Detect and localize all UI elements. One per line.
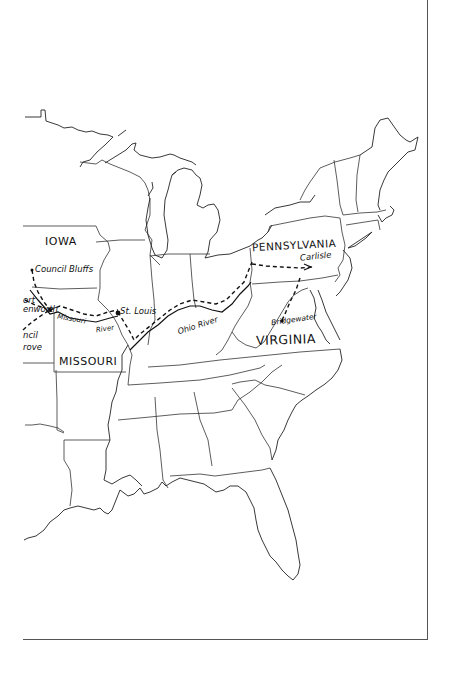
maine-coast (360, 118, 418, 210)
place-label-council-grove-line2: rove (23, 343, 42, 352)
cape-cod (378, 206, 394, 222)
upper-peninsula-shore (105, 143, 196, 165)
state-label-virginia: VIRGINIA (256, 333, 316, 348)
pennsylvania-east-border (335, 260, 343, 282)
lake-michigan-east-shore (146, 172, 176, 258)
tennessee-north-border (128, 365, 265, 385)
place-label-council-grove-line1: ncil (23, 331, 38, 340)
map-canvas (0, 0, 451, 674)
wisconsin-illinois-border (96, 240, 145, 242)
gulf-coast (24, 478, 180, 540)
carolina-coast (272, 349, 342, 460)
tennessee-south-border (118, 410, 232, 420)
kentucky-tennessee-west (128, 345, 132, 385)
iowa-illinois-border (96, 226, 110, 300)
lake-superior-shore (25, 110, 113, 167)
new-hampshire-border (356, 155, 360, 212)
virginia-north-carolina-border (148, 349, 340, 367)
mississippi-alabama-border (155, 397, 168, 488)
lake-ontario-shore (265, 195, 315, 215)
virginia-kentucky-border (216, 332, 232, 355)
tennessee-nc-border (232, 365, 282, 410)
isle-royale (118, 130, 126, 136)
place-label-st-louis: St. Louis (120, 307, 156, 316)
lower-michigan-shore (172, 168, 220, 258)
iowa-missouri-border (32, 287, 97, 289)
connecticut-border (346, 220, 380, 230)
delmarva-coast (318, 290, 340, 340)
wisconsin-border (80, 160, 160, 265)
place-label-fort-leavenworth-line2: enworth (23, 305, 58, 314)
nc-sc-border (232, 380, 305, 395)
alabama-georgia-border (194, 392, 212, 466)
louisiana-texas-border (64, 440, 72, 506)
new-jersey-coast (336, 250, 352, 296)
massachusetts-border (343, 210, 386, 215)
sc-georgia-border (232, 388, 272, 460)
council-bluffs-marker-icon (31, 269, 34, 272)
place-label-council-bluffs: Council Bluffs (35, 265, 93, 274)
michigan-indiana-border (150, 254, 210, 256)
carlisle-arrow-icon (304, 264, 311, 270)
pennsylvania-south-border (252, 275, 338, 284)
state-label-missouri: MISSOURI (59, 356, 117, 367)
oklahoma-arkansas-border (56, 370, 64, 433)
long-island (348, 232, 372, 248)
new-york-north-border (300, 155, 360, 200)
georgia-florida-border (170, 468, 270, 476)
vermont-border (334, 160, 343, 215)
florida-coast (180, 468, 300, 580)
route-to-carlisle (252, 264, 312, 268)
state-label-iowa: IOWA (45, 236, 77, 247)
